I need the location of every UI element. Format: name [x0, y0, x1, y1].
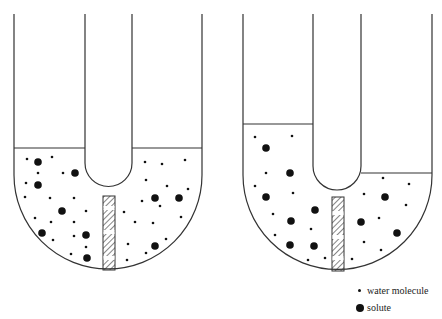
membrane-left — [103, 196, 115, 270]
legend-item-water: water molecule — [356, 282, 428, 299]
legend-label-water: water molecule — [367, 282, 428, 299]
water-molecule-icon — [358, 289, 361, 292]
legend: water molecule solute — [356, 282, 428, 316]
osmosis-diagram — [0, 0, 442, 319]
legend-item-solute: solute — [356, 299, 428, 316]
solute-icon — [356, 304, 364, 312]
legend-label-solute: solute — [367, 299, 391, 316]
membrane-right — [332, 197, 344, 271]
